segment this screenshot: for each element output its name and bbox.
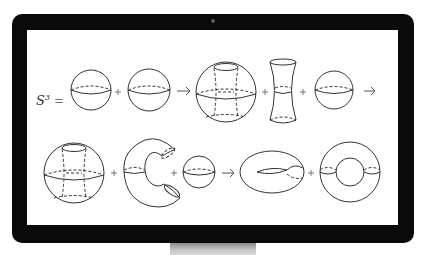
monitor-screen: S3 = [27, 30, 398, 225]
sphere-minus-tube [196, 62, 256, 122]
plus-sign [171, 170, 177, 176]
plus-sign [308, 170, 314, 176]
monitor-stand [170, 243, 256, 255]
camera-icon [211, 19, 215, 23]
monitor-bezel: S3 = [12, 14, 414, 243]
arrow-icon [364, 87, 375, 95]
topology-diagram [27, 30, 398, 225]
plus-sign [262, 89, 268, 95]
sphere-1 [71, 70, 111, 110]
ring-torus [320, 142, 380, 202]
sphere-4 [183, 156, 215, 188]
plus-sign [111, 170, 117, 176]
arrow-icon [222, 169, 234, 177]
plus-sign [115, 89, 121, 95]
sphere-minus-tube-2 [44, 143, 104, 203]
hyperboloid-tube [270, 59, 296, 123]
torus-with-fold [240, 151, 304, 193]
plus-sign [300, 89, 306, 95]
sphere-3 [315, 71, 353, 109]
sphere-2 [128, 69, 170, 111]
arrow-icon [177, 87, 190, 95]
